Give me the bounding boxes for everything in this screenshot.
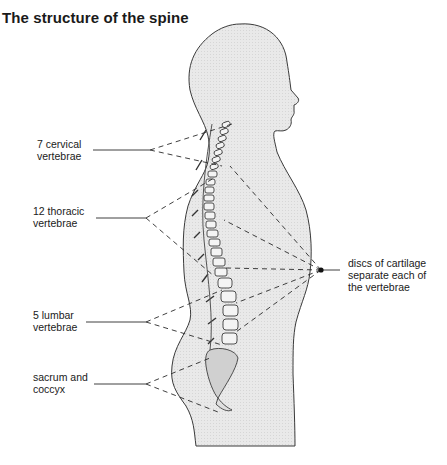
label-sacrum-coccyx: sacrum and coccyx [33, 371, 88, 395]
label-thoracic: 12 thoracic vertebrae [33, 205, 84, 229]
spine-diagram [0, 0, 447, 465]
label-lumbar-line2: vertebrae [33, 321, 77, 333]
label-cervical-line1: 7 cervical [37, 138, 81, 150]
label-thoracic-line2: vertebrae [33, 217, 84, 229]
label-lumbar: 5 lumbar vertebrae [33, 309, 77, 333]
label-sacrum-line1: sacrum and [33, 371, 88, 383]
discs-pointer-dot [318, 267, 323, 272]
label-sacrum-line2: coccyx [33, 383, 88, 395]
label-discs-line1: discs of cartilage [348, 257, 426, 269]
label-discs-line3: the vertebrae [348, 281, 426, 293]
label-cervical-line2: vertebrae [37, 150, 81, 162]
label-thoracic-line1: 12 thoracic [33, 205, 84, 217]
label-discs-line2: separate each of [348, 269, 426, 281]
label-cervical: 7 cervical vertebrae [37, 138, 81, 162]
label-discs: discs of cartilage separate each of the … [348, 257, 426, 293]
label-lumbar-line1: 5 lumbar [33, 309, 77, 321]
